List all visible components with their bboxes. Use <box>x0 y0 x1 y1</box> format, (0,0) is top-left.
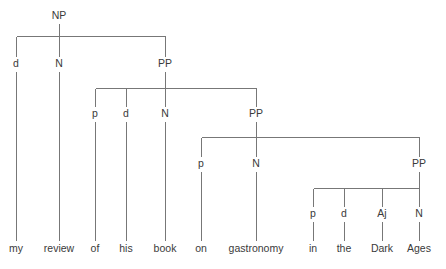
node-label-d-his: d <box>121 108 131 119</box>
node-label-pp-2: PP <box>247 108 265 119</box>
node-label-n-review: N <box>53 58 65 69</box>
node-label-pp-1: PP <box>156 58 174 69</box>
leaf-label-word-gastronomy: gastronomy <box>227 243 286 254</box>
leaf-label-word-on: on <box>193 243 209 254</box>
leaf-label-word-his: his <box>117 243 134 254</box>
node-label-aj-dark: Aj <box>375 208 388 219</box>
node-label-p-in: p <box>308 208 318 219</box>
leaf-label-word-in: in <box>307 243 319 254</box>
leaf-label-word-book: book <box>152 243 179 254</box>
tree-edges-layer <box>0 0 446 269</box>
node-label-p-on: p <box>196 158 206 169</box>
syntax-tree-diagram: NPdNPPpdNPPpNPPpdAjNmyreviewofhisbookong… <box>0 0 446 269</box>
node-label-n-book: N <box>159 108 171 119</box>
node-label-p-of: p <box>90 108 100 119</box>
node-label-n-ages: N <box>413 208 425 219</box>
node-label-d-the: d <box>339 208 349 219</box>
node-label-pp-3: PP <box>410 158 428 169</box>
leaf-label-word-dark: Dark <box>369 243 395 254</box>
leaf-label-word-review: review <box>42 243 76 254</box>
node-label-np-root: NP <box>50 10 69 21</box>
node-label-d-my: d <box>11 58 21 69</box>
tree-edges-group <box>17 24 420 241</box>
leaf-label-word-ages: Ages <box>405 243 433 254</box>
leaf-label-word-my: my <box>7 243 25 254</box>
leaf-label-word-of: of <box>89 243 102 254</box>
leaf-label-word-the: the <box>335 243 354 254</box>
node-label-n-gastro: N <box>250 158 262 169</box>
